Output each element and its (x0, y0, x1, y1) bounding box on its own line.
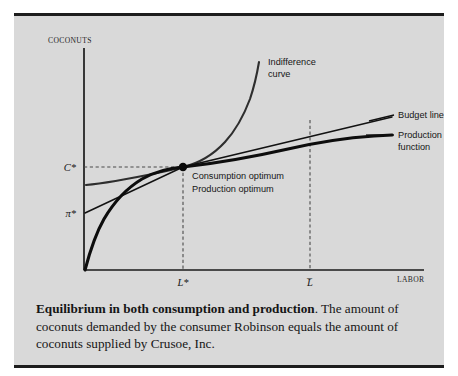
y-tick-c-star: C* (64, 162, 77, 173)
figure-caption: Equilibrium in both consumption and prod… (36, 300, 428, 353)
budget-line (85, 117, 392, 213)
x-tick-l-star: L* (176, 277, 189, 288)
production-function-label-line1: Production (398, 130, 442, 140)
consumption-optimum-label: Consumption optimum (192, 171, 284, 181)
indifference-curve-label-line1: Indifference (268, 57, 316, 67)
figure-root: COCONUTS LABOR C* π* L* L̅ Indifference … (0, 0, 458, 376)
production-function-label-line2: function (398, 142, 430, 152)
production-optimum-label: Production optimum (192, 184, 274, 194)
x-tick-l-bar: L̅ (306, 277, 313, 288)
caption-title: Equilibrium in both consumption and prod… (36, 301, 315, 316)
y-axis-label: COCONUTS (48, 36, 92, 45)
chart-plot-area: COCONUTS LABOR C* π* L* L̅ Indifference … (14, 16, 444, 296)
bottom-rule (14, 365, 444, 368)
indifference-curve-label-line2: curve (268, 69, 290, 79)
production-function-curve (85, 135, 392, 270)
budget-line-label: Budget line (398, 110, 444, 120)
y-tick-pi-star: π* (65, 208, 76, 219)
x-axis-label: LABOR (397, 275, 425, 284)
optimum-point (179, 163, 187, 171)
